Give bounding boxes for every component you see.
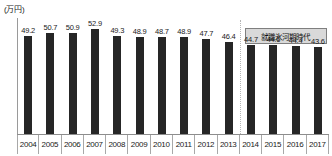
bar [292, 46, 300, 134]
x-axis-tick-label: 2009 [128, 135, 150, 154]
bar [46, 33, 54, 134]
y-axis-unit-label: (万円) [4, 3, 25, 14]
x-axis-tick-label: 2006 [62, 135, 84, 154]
bar-slot: 43.6 [307, 18, 329, 134]
bar [247, 45, 255, 134]
bar-value-label: 48.9 [133, 27, 147, 36]
bar [202, 39, 210, 134]
x-axis-tick-label: 2017 [307, 135, 329, 154]
bar-value-label: 48.7 [155, 27, 169, 36]
bar [180, 37, 188, 134]
bar [269, 45, 277, 134]
bar-value-label: 48.9 [177, 27, 191, 36]
x-axis-tick-label: 2013 [218, 135, 240, 154]
bar-value-label: 52.9 [88, 19, 102, 28]
bar [158, 37, 166, 134]
bar-value-label: 50.9 [66, 23, 80, 32]
bar [91, 29, 99, 134]
bar [136, 37, 144, 134]
bar-slot: 48.9 [128, 18, 150, 134]
x-axis-tick-label: 2012 [195, 135, 217, 154]
x-axis-tick-label: 2004 [17, 135, 39, 154]
x-axis-tick-label: 2016 [284, 135, 306, 154]
bar-value-label: 43.6 [311, 37, 325, 46]
bar-value-label: 44.7 [244, 35, 258, 44]
bar-slot: 44.4 [284, 18, 306, 134]
bar [24, 36, 32, 134]
bar-slot: 44.7 [240, 18, 262, 134]
bar-slot: 50.9 [62, 18, 84, 134]
x-axis-tick-label: 2005 [39, 135, 61, 154]
bar-value-label: 46.4 [222, 32, 236, 41]
bar-slot: 47.7 [195, 18, 217, 134]
bar-slot: 49.2 [17, 18, 39, 134]
bar-chart: (万円) 就職氷河期時代 49.250.750.952.949.348.948.… [0, 0, 332, 156]
bar [225, 42, 233, 134]
bar-value-label: 49.2 [21, 26, 35, 35]
bar-value-label: 49.3 [110, 26, 124, 35]
x-axis-tick-label: 2007 [84, 135, 106, 154]
plot-area: 49.250.750.952.949.348.948.748.947.746.4… [17, 18, 329, 134]
bar-slot: 49.3 [106, 18, 128, 134]
bar [314, 47, 322, 134]
x-axis-tick-label: 2011 [173, 135, 195, 154]
bar-slot: 48.7 [151, 18, 173, 134]
bar-slot: 46.4 [218, 18, 240, 134]
bar-slot: 50.7 [39, 18, 61, 134]
x-axis-tick-label: 2008 [106, 135, 128, 154]
bar-value-label: 47.7 [200, 29, 214, 38]
x-axis-tick-label: 2014 [240, 135, 262, 154]
x-axis-tick-label: 2015 [262, 135, 284, 154]
bar-value-label: 44.4 [289, 36, 303, 45]
bar-value-label: 50.7 [44, 23, 58, 32]
x-axis-tick-label: 2010 [151, 135, 173, 154]
bar [113, 36, 121, 134]
bar-value-label: 44.6 [266, 35, 280, 44]
bar-slot: 44.6 [262, 18, 284, 134]
bar-slot: 48.9 [173, 18, 195, 134]
bar-slot: 52.9 [84, 18, 106, 134]
x-axis-category-labels: 2004200520062007200820092010201120122013… [17, 135, 329, 154]
bar [69, 33, 77, 134]
